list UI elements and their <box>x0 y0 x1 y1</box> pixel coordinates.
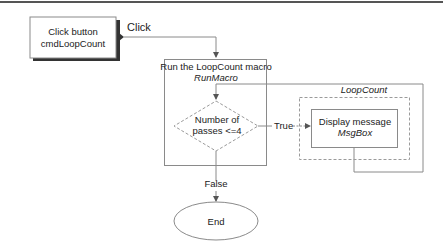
end-label: End <box>208 216 225 227</box>
edge-click-label: Click <box>127 21 151 33</box>
action-line2: MsgBox <box>338 127 374 138</box>
edge-false: False <box>204 151 227 201</box>
macro-subtitle: RunMacro <box>194 72 238 83</box>
edge-click: Click <box>124 21 216 57</box>
flowchart-canvas: Click button cmdLoopCount Click Run the … <box>0 0 443 250</box>
end-node: End <box>174 202 258 240</box>
start-node-click-button: Click button cmdLoopCount <box>30 17 124 61</box>
start-node-line2: cmdLoopCount <box>41 38 106 49</box>
action-node-display-message: Display message MsgBox <box>312 110 398 148</box>
edge-true: True <box>258 120 310 131</box>
edge-false-label: False <box>204 178 227 189</box>
start-node-line1: Click button <box>48 26 98 37</box>
start-node-pointer <box>119 33 124 41</box>
edge-true-label: True <box>274 120 293 131</box>
action-line1: Display message <box>319 116 391 127</box>
decision-line2: passes <=4 <box>192 125 241 136</box>
loop-group-label: LoopCount <box>341 84 388 95</box>
decision-line1: Number of <box>195 114 240 125</box>
decision-node: Number of passes <=4 <box>174 101 258 151</box>
macro-title: Run the LoopCount macro <box>160 61 271 72</box>
